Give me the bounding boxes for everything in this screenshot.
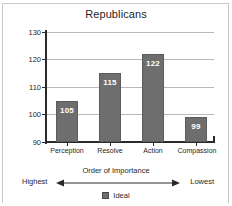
bar-value-perception: 105 (57, 106, 77, 115)
importance-lowest-label: Lowest (190, 177, 214, 186)
importance-arrow-row: Highest Lowest (0, 177, 232, 189)
x-axis-title: Order of Importance (0, 166, 232, 175)
y-tick-label-100: 100 (28, 110, 41, 119)
x-tick-2 (153, 142, 154, 146)
gridline-110: 110 (46, 87, 214, 88)
y-tick-label-130: 130 (28, 28, 41, 37)
y-tick-110 (42, 87, 47, 88)
x-tick-0 (67, 142, 68, 146)
y-tick-130 (42, 32, 47, 33)
bar-value-action: 122 (143, 59, 163, 68)
gridline-130: 130 (46, 32, 214, 33)
x-tick-3 (196, 142, 197, 146)
bar-value-resolve: 115 (100, 78, 120, 87)
x-label-resolve: Resolve (97, 147, 122, 154)
importance-highest-label: Highest (22, 177, 47, 186)
chart-figure: Republicans Level of Expectation 130 120… (0, 0, 232, 206)
x-tick-1 (110, 142, 111, 146)
chart-title: Republicans (0, 8, 232, 20)
bar-perception[interactable]: 105 (56, 101, 78, 142)
y-tick-120 (42, 59, 47, 60)
double-arrow-icon (56, 177, 180, 189)
y-tick-label-110: 110 (29, 83, 41, 92)
legend-label-ideal: Ideal (113, 191, 129, 200)
bar-resolve[interactable]: 115 (99, 73, 121, 142)
plot-area: 130 120 110 100 90 105 115 122 99 (46, 32, 214, 142)
x-label-action: Action (143, 147, 162, 154)
bar-compassion[interactable]: 99 (185, 117, 207, 142)
gridline-120: 120 (46, 59, 214, 60)
y-tick-90 (42, 142, 47, 143)
gridline-90: 90 (46, 142, 214, 143)
legend-swatch-ideal (102, 192, 109, 199)
chart-legend: Ideal (0, 191, 232, 200)
x-label-perception: Perception (50, 147, 83, 154)
bar-action[interactable]: 122 (142, 54, 164, 142)
y-tick-100 (42, 114, 47, 115)
y-tick-label-120: 120 (28, 55, 41, 64)
x-label-compassion: Compassion (178, 147, 217, 154)
bar-value-compassion: 99 (186, 122, 206, 131)
y-tick-label-90: 90 (33, 138, 41, 147)
